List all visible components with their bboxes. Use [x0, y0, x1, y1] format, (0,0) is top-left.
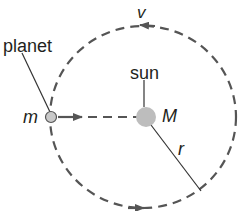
planet-mass-label: m — [23, 108, 38, 126]
sun-body — [136, 107, 156, 127]
planet-leader-line — [22, 53, 50, 112]
orbit-diagram — [0, 0, 239, 211]
planet-body — [46, 112, 57, 123]
sun-label: sun — [130, 64, 159, 82]
sun-mass-label: M — [162, 107, 177, 125]
velocity-arrow-top — [140, 25, 155, 26]
velocity-label: v — [137, 4, 146, 21]
planet-label: planet — [3, 37, 52, 55]
radius-line — [151, 125, 201, 191]
radius-label: r — [178, 140, 184, 158]
